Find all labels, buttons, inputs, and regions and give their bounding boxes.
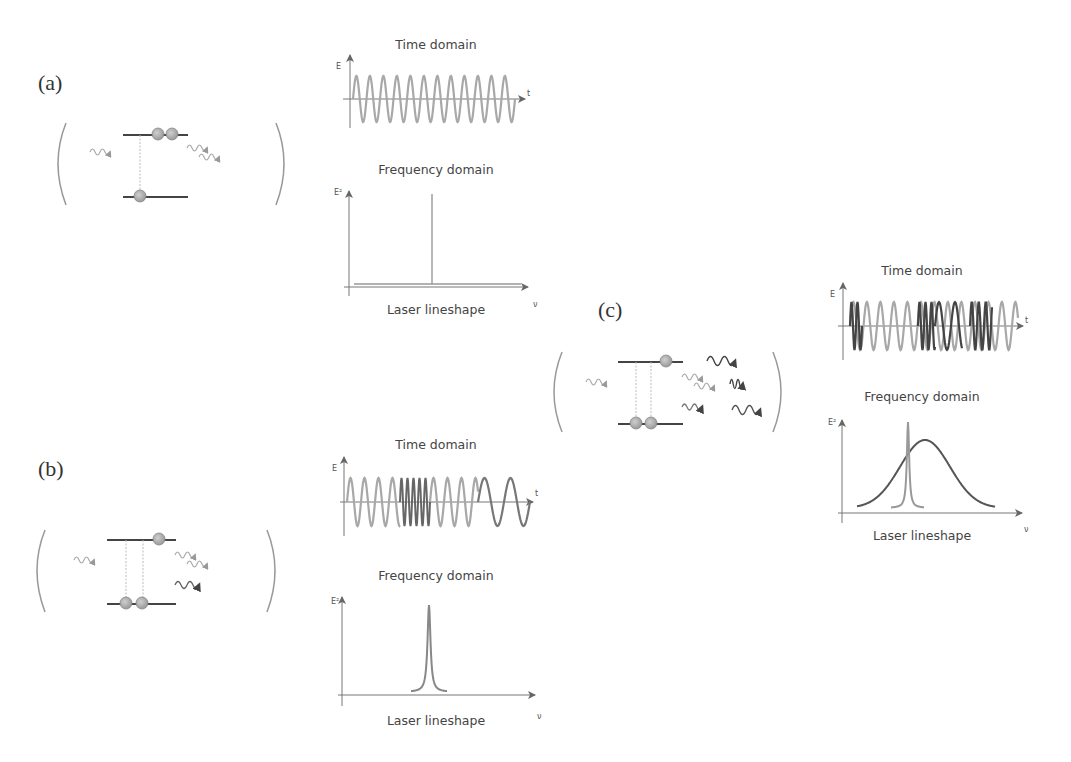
panel-c-freq-plot bbox=[838, 420, 1022, 523]
right-bracket bbox=[276, 123, 284, 205]
atom-icon bbox=[152, 128, 164, 140]
panel-b-time-plot bbox=[340, 457, 533, 536]
panel-c-time-plot bbox=[838, 283, 1023, 360]
panel-b-freq-plot bbox=[338, 597, 535, 706]
atom-icon bbox=[630, 417, 642, 429]
panel-a-freq-plot bbox=[344, 191, 528, 296]
panel-c-atom-diagram bbox=[554, 352, 781, 432]
atom-icon bbox=[136, 597, 148, 609]
outgoing-photon-icon bbox=[732, 406, 760, 415]
diagram-canvas bbox=[0, 0, 1071, 762]
incoming-photon-icon bbox=[586, 379, 606, 385]
panel-b-atom-diagram bbox=[37, 530, 275, 612]
narrow-lorentzian-lineshape bbox=[891, 422, 924, 507]
atom-icon bbox=[153, 533, 165, 545]
atom-icon bbox=[120, 597, 132, 609]
incoming-photon-icon bbox=[90, 149, 110, 155]
outgoing-photon-icon bbox=[175, 582, 199, 589]
panel-a-time-plot bbox=[343, 55, 525, 128]
left-bracket bbox=[58, 123, 66, 205]
outgoing-photon-icon bbox=[187, 145, 207, 151]
incoming-photon-icon bbox=[74, 557, 94, 563]
atom-icon bbox=[660, 355, 672, 367]
outgoing-photon-icon bbox=[199, 154, 219, 160]
atom-icon bbox=[645, 417, 657, 429]
broad-gaussian-lineshape bbox=[857, 440, 995, 507]
atom-icon bbox=[134, 190, 146, 202]
panel-a-atom-diagram bbox=[58, 123, 284, 205]
lorentzian-lineshape bbox=[411, 605, 447, 691]
atom-icon bbox=[166, 128, 178, 140]
